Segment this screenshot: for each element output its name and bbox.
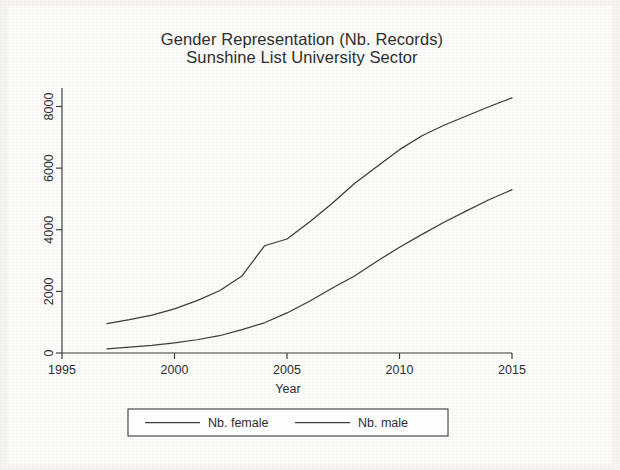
- legend-label-male: Nb. male: [358, 416, 408, 430]
- y-tick-label: 8000: [42, 93, 56, 121]
- y-axis-ticks: 02000400060008000: [42, 93, 62, 357]
- x-tick-label: 2000: [161, 363, 189, 377]
- chart-legend: Nb. female Nb. male: [128, 409, 448, 436]
- chart-figure: Gender Representation (Nb. Records) Suns…: [0, 0, 620, 470]
- line-chart-plot: 02000400060008000 19952000200520102015 Y…: [0, 0, 620, 470]
- series-line-nb-female: [107, 190, 512, 349]
- data-series-group: [107, 98, 512, 349]
- y-tick-label: 4000: [42, 216, 56, 244]
- legend-label-female: Nb. female: [208, 416, 268, 430]
- y-tick-label: 2000: [42, 277, 56, 305]
- x-tick-label: 1995: [48, 363, 76, 377]
- series-line-nb-male: [107, 98, 512, 324]
- x-tick-label: 2015: [498, 363, 526, 377]
- y-tick-label: 0: [42, 349, 56, 356]
- x-tick-label: 2005: [273, 363, 301, 377]
- x-axis-ticks: 19952000200520102015: [48, 353, 526, 377]
- x-axis-title: Year: [275, 382, 300, 396]
- y-tick-label: 6000: [42, 154, 56, 182]
- x-tick-label: 2010: [386, 363, 414, 377]
